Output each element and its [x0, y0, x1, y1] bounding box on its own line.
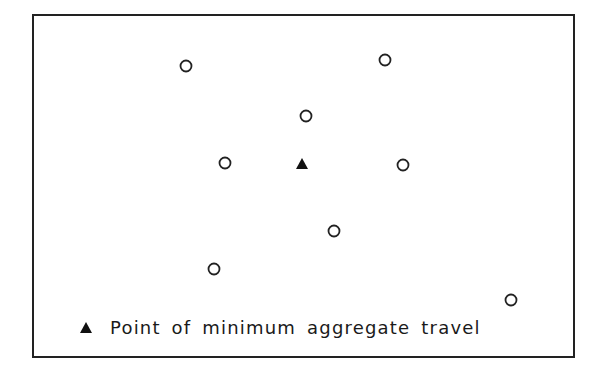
minimum-travel-point-icon — [296, 158, 308, 169]
legend: Point of minimum aggregate travel — [80, 317, 481, 338]
origin-point-icon — [380, 55, 391, 66]
location-diagram: Point of minimum aggregate travel — [0, 0, 594, 373]
legend-triangle-icon — [80, 322, 92, 333]
origin-point-icon — [181, 61, 192, 72]
origin-point-icon — [506, 295, 517, 306]
origin-point-icon — [329, 226, 340, 237]
origin-point-icon — [301, 111, 312, 122]
points-layer — [181, 55, 517, 306]
origin-point-icon — [220, 158, 231, 169]
origin-point-icon — [398, 160, 409, 171]
legend-label: Point of minimum aggregate travel — [110, 317, 481, 338]
diagram-frame — [33, 15, 574, 357]
origin-point-icon — [209, 264, 220, 275]
